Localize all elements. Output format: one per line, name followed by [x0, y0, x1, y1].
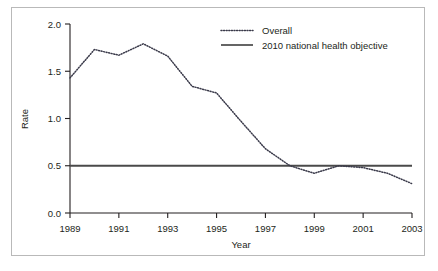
x-tick-label: 1999 [304, 223, 325, 234]
legend-label-objective: 2010 national health objective [262, 40, 388, 51]
y-axis-title: Rate [19, 109, 30, 129]
y-tick-label: 1.5 [48, 66, 61, 77]
y-tick-label: 0.0 [48, 208, 61, 219]
chart-legend: Overall 2010 national health objective [221, 25, 388, 51]
chart-figure: 0.00.51.01.52.0 198919911993199519971999… [11, 7, 425, 256]
x-tick-label: 1989 [59, 223, 80, 234]
line-chart: 0.00.51.01.52.0 198919911993199519971999… [12, 8, 424, 255]
x-tick-label: 1995 [206, 223, 227, 234]
legend-label-overall: Overall [262, 25, 292, 36]
x-tick-label: 1991 [108, 223, 129, 234]
x-tick-label: 2001 [353, 223, 374, 234]
y-tick-label: 2.0 [48, 19, 61, 30]
x-tick-label: 1993 [157, 223, 178, 234]
y-tick-label: 0.5 [48, 160, 61, 171]
x-tick-label: 2003 [401, 223, 422, 234]
y-axis-ticks: 0.00.51.01.52.0 [48, 19, 70, 219]
x-axis-title: Year [231, 239, 250, 250]
y-tick-label: 1.0 [48, 113, 61, 124]
x-axis-ticks: 19891991199319951997199920012003 [59, 213, 422, 234]
x-tick-label: 1997 [255, 223, 276, 234]
series-line-overall [70, 44, 412, 184]
